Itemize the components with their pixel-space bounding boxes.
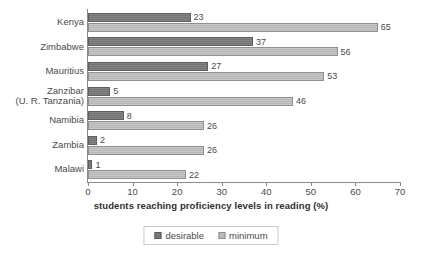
bar-desirable-0 (88, 13, 191, 22)
legend-swatch-desirable (154, 232, 161, 239)
bar-desirable-3 (88, 87, 110, 96)
bar-minimum-6 (88, 170, 186, 179)
bar-value-desirable-5: 2 (100, 136, 105, 145)
category-label-1: Zimbabwe (0, 42, 84, 53)
bar-minimum-1 (88, 47, 338, 56)
x-tick-label-40: 40 (254, 186, 278, 197)
legend-label-desirable: desirable (165, 230, 204, 241)
bar-value-minimum-0: 65 (381, 23, 391, 32)
legend-item-desirable[interactable]: desirable (154, 230, 204, 241)
bar-value-minimum-4: 26 (207, 122, 217, 131)
category-label-5: Zambia (0, 140, 84, 151)
bar-minimum-5 (88, 146, 204, 155)
x-tick-label-30: 30 (210, 186, 234, 197)
bar-value-desirable-2: 27 (211, 62, 221, 71)
bar-value-desirable-4: 8 (127, 112, 132, 121)
legend-item-minimum[interactable]: minimum (218, 230, 268, 241)
x-tick-label-70: 70 (388, 186, 412, 197)
bar-desirable-1 (88, 37, 253, 46)
category-label-2: Mauritius (0, 66, 84, 77)
bar-value-minimum-3: 46 (296, 97, 306, 106)
category-label-6: Malawi (0, 164, 84, 175)
bar-minimum-4 (88, 121, 204, 130)
x-tick-label-20: 20 (165, 186, 189, 197)
bar-value-minimum-2: 53 (327, 72, 337, 81)
bar-desirable-5 (88, 136, 97, 145)
bar-desirable-4 (88, 111, 124, 120)
bar-desirable-2 (88, 62, 208, 71)
bar-value-minimum-6: 22 (189, 171, 199, 180)
bar-value-desirable-3: 5 (113, 87, 118, 96)
bar-chart: 236537562753546826226122 KenyaZimbabweMa… (0, 0, 422, 263)
bar-desirable-6 (88, 160, 92, 169)
category-label-3: Zanzibar(U. R. Tanzania) (0, 86, 84, 107)
bar-value-minimum-1: 56 (341, 48, 351, 57)
chart-legend: desirable minimum (143, 226, 278, 245)
x-tick-label-10: 10 (121, 186, 145, 197)
category-label-4: Namibia (0, 115, 84, 126)
legend-swatch-minimum (218, 232, 225, 239)
x-tick-label-60: 60 (343, 186, 367, 197)
bar-value-desirable-6: 1 (95, 161, 100, 170)
bar-value-desirable-0: 23 (194, 13, 204, 22)
x-tick-label-50: 50 (299, 186, 323, 197)
bar-minimum-3 (88, 97, 293, 106)
plot-area: 236537562753546826226122 (88, 10, 400, 182)
x-axis-title: students reaching proficiency levels in … (0, 200, 422, 211)
bar-value-minimum-5: 26 (207, 146, 217, 155)
bar-minimum-0 (88, 23, 378, 32)
bar-value-desirable-1: 37 (256, 38, 266, 47)
legend-label-minimum: minimum (229, 230, 268, 241)
x-tick-label-0: 0 (76, 186, 100, 197)
x-axis-line (87, 182, 401, 183)
bar-minimum-2 (88, 72, 324, 81)
category-label-0: Kenya (0, 17, 84, 28)
